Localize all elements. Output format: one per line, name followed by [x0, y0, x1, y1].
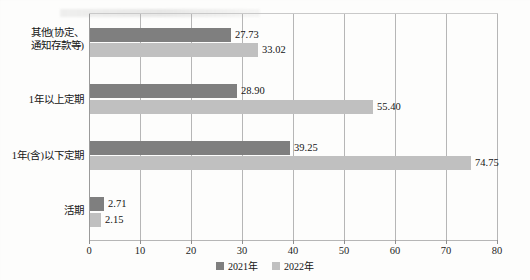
x-tick-label: 40 [288, 245, 299, 257]
category-label-over-one-year: 1年以上定期 [29, 94, 84, 107]
category-label-within-one-year: 1年(含)以下定期 [12, 150, 84, 163]
x-tick-mark [395, 240, 396, 244]
x-tick-label: 10 [135, 245, 146, 257]
x-tick-mark [446, 240, 447, 244]
bar-value-label: 2.71 [108, 198, 126, 210]
bar-value-label: 74.75 [475, 157, 499, 169]
x-tick-label: 70 [441, 245, 452, 257]
legend-item-2022: 2022年 [272, 258, 314, 273]
category-label-other-line2: 通知存款等) [31, 40, 85, 53]
bar-value-label: 39.25 [294, 142, 318, 154]
x-tick-mark [344, 240, 345, 244]
bar-chart: 01020304050607080 其他(协定、 通知存款等) 1年以上定期 1… [0, 0, 530, 280]
bar-value-label: 27.73 [235, 29, 259, 41]
x-tick-label: 60 [390, 245, 401, 257]
legend-swatch-icon-2021 [216, 262, 224, 270]
x-tick-label: 20 [186, 245, 197, 257]
x-tick-mark [242, 240, 243, 244]
bar-2021年-1年(含)以下定期 [90, 141, 290, 155]
bar-value-label: 33.02 [262, 44, 286, 56]
gridline [395, 14, 396, 240]
bar-value-label: 55.40 [377, 101, 401, 113]
legend-label-2021: 2021年 [228, 258, 258, 273]
legend-swatch-icon-2022 [272, 262, 280, 270]
x-tick-label: 0 [86, 245, 91, 257]
x-tick-label: 30 [237, 245, 248, 257]
bar-2022年-活期 [90, 213, 101, 227]
bar-value-label: 28.90 [241, 85, 265, 97]
x-tick-mark [191, 240, 192, 244]
gridline [293, 14, 294, 240]
x-tick-mark [497, 240, 498, 244]
bar-2022年-其他(协定、通知存款等) [90, 43, 258, 57]
chart-legend: 2021年 2022年 [0, 258, 530, 273]
bar-2022年-1年(含)以下定期 [90, 156, 471, 170]
legend-label-2022: 2022年 [284, 258, 314, 273]
x-tick-mark [89, 240, 90, 244]
bar-value-label: 2.15 [105, 214, 123, 226]
bar-2022年-1年以上定期 [90, 100, 373, 114]
gridline [446, 14, 447, 240]
category-label-demand: 活期 [64, 205, 84, 218]
x-tick-mark [140, 240, 141, 244]
x-tick-label: 80 [492, 245, 503, 257]
category-label-other: 其他(协定、 通知存款等) [31, 27, 85, 52]
bar-2021年-1年以上定期 [90, 84, 237, 98]
category-label-other-line1: 其他(协定、 [31, 27, 85, 40]
x-tick-label: 50 [339, 245, 350, 257]
gridline [344, 14, 345, 240]
bar-2021年-其他(协定、通知存款等) [90, 28, 231, 42]
legend-item-2021: 2021年 [216, 258, 258, 273]
bar-2021年-活期 [90, 197, 104, 211]
x-tick-mark [293, 240, 294, 244]
gridline [497, 14, 498, 240]
